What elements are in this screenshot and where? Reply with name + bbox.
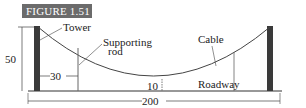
tower-leader bbox=[40, 28, 62, 40]
right-tower bbox=[267, 26, 273, 91]
cable-label: Cable bbox=[198, 33, 224, 45]
span-value: 200 bbox=[142, 95, 159, 107]
cable-curve bbox=[38, 27, 270, 76]
tower-label: Tower bbox=[63, 21, 91, 33]
roadway-label: Roadway bbox=[198, 78, 240, 90]
left-tower bbox=[34, 26, 40, 91]
height-value: 50 bbox=[5, 53, 17, 65]
rod-offset-value: 30 bbox=[50, 70, 62, 82]
min-clearance-value: 10 bbox=[147, 80, 159, 92]
suspension-bridge-diagram: 50 30 10 200 Tower Supporting rod Cable … bbox=[0, 0, 306, 108]
supporting-rod-label-line2: rod bbox=[108, 45, 123, 57]
